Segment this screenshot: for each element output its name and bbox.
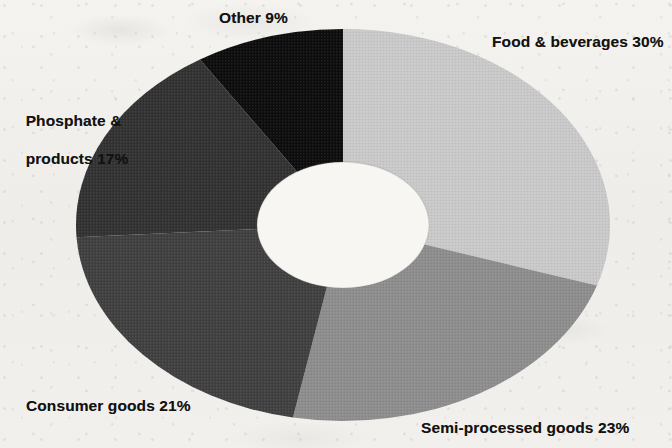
slice-label-semi-processed-goods: Semi-processed goods 23% <box>421 418 629 437</box>
slice-label-phosphate-and-products: Phosphate & products 17% <box>8 92 128 187</box>
slice-label-phosphate-line2: products 17% <box>26 150 129 167</box>
donut-center-hole <box>257 162 429 288</box>
donut-chart-svg <box>0 0 672 448</box>
slice-label-food-and-beverages: Food & beverages 30% <box>492 32 664 51</box>
slice-label-phosphate-line1: Phosphate & <box>26 112 122 129</box>
donut-chart-figure: Other 9% Food & beverages 30% Phosphate … <box>0 0 672 448</box>
slice-label-consumer-goods: Consumer goods 21% <box>26 396 191 415</box>
slice-label-other: Other 9% <box>219 8 288 27</box>
